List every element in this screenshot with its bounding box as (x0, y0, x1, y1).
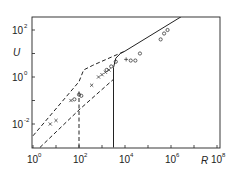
cross-marker (49, 122, 52, 125)
svg-text:0: 0 (24, 70, 28, 76)
y-tick-label: 102 (12, 23, 28, 36)
svg-text:2: 2 (84, 152, 88, 158)
svg-text:6: 6 (176, 152, 180, 158)
svg-text:2: 2 (24, 23, 28, 29)
svg-text:10: 10 (119, 154, 131, 165)
chart: 10010210410610810210010-2 U R (0, 0, 233, 174)
svg-text:10: 10 (73, 154, 85, 165)
solid-curve (114, 16, 183, 148)
circle-marker (110, 65, 113, 68)
x-tick-label: 100 (27, 152, 42, 165)
cross-marker (90, 84, 93, 87)
circle-marker (159, 38, 162, 41)
svg-text:-2: -2 (24, 117, 30, 123)
y-axis-label: U (13, 47, 21, 58)
svg-text:8: 8 (222, 152, 226, 158)
svg-text:10: 10 (211, 154, 223, 165)
cross-marker (69, 99, 72, 102)
y-tick-label: 100 (12, 70, 28, 83)
series-layer (33, 16, 183, 148)
cross-marker (54, 119, 57, 122)
cross-marker (97, 75, 100, 78)
svg-text:0: 0 (38, 152, 42, 158)
y-tick-label: 10-2 (12, 117, 30, 130)
axis-ticks (32, 30, 217, 148)
circle-marker (163, 32, 166, 35)
svg-text:10: 10 (12, 25, 24, 36)
svg-text:10: 10 (12, 72, 24, 83)
circle-marker (166, 28, 169, 31)
tick-labels: 10010210410610810210010-2 (12, 23, 226, 165)
lower-dashed-curve (40, 79, 114, 147)
circle-marker (134, 59, 137, 62)
svg-text:4: 4 (130, 152, 134, 158)
svg-text:10: 10 (27, 154, 39, 165)
circle-marker (138, 52, 141, 55)
cross-marker (100, 73, 103, 76)
x-axis-label: R (201, 155, 208, 166)
circle-marker (73, 98, 76, 101)
svg-text:10: 10 (165, 154, 177, 165)
x-tick-label: 106 (165, 152, 180, 165)
circle-marker (129, 59, 132, 62)
svg-text:10: 10 (12, 119, 24, 130)
x-tick-label: 102 (73, 152, 88, 165)
plus-marker (124, 57, 128, 61)
x-tick-label: 104 (119, 152, 134, 165)
x-tick-label: 108 (211, 152, 226, 165)
